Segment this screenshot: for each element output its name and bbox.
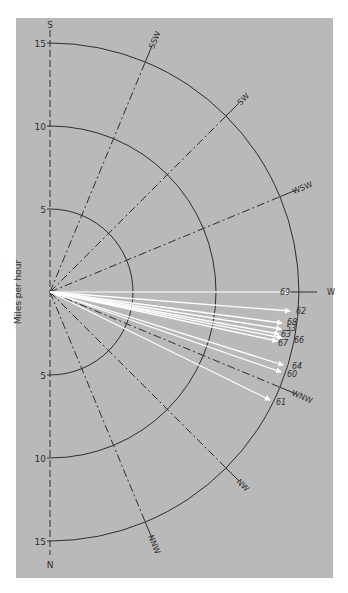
wind-arrow-53 xyxy=(50,292,281,329)
arrow-label: 67 xyxy=(278,339,289,348)
direction-label-wnw: WNW xyxy=(290,389,314,406)
direction-label-wsw: WSW xyxy=(291,180,314,196)
direction-line-nw xyxy=(50,292,226,468)
ring-label-top: 10 xyxy=(35,122,47,132)
ring-label-bottom: 15 xyxy=(35,537,46,547)
wind-arrow-67 xyxy=(50,292,277,341)
direction-label-ssw: SSW xyxy=(147,30,162,50)
arrow-label: 60 xyxy=(287,370,297,379)
direction-line-nnw xyxy=(50,292,145,522)
direction-label-nw: NW xyxy=(235,477,251,493)
arrow-label: 61 xyxy=(276,398,286,407)
wind-arrow-60 xyxy=(50,292,281,372)
wind-arrow-61 xyxy=(50,292,270,400)
direction-label-nnw: NNW xyxy=(146,534,162,556)
ring-label-bottom: 5 xyxy=(40,371,46,381)
direction-label-w: W xyxy=(327,288,335,297)
ring-label-top: 15 xyxy=(35,39,46,49)
ring-label-top: 5 xyxy=(40,205,46,215)
speed-rings: 5510101515 xyxy=(35,39,299,547)
wind-arrows: 69626853636667646061 xyxy=(50,288,306,407)
arrow-label: 62 xyxy=(296,307,306,316)
direction-line-wsw xyxy=(50,197,280,292)
direction-line-ssw xyxy=(50,62,145,292)
ring-label-bottom: 10 xyxy=(35,454,47,464)
axis-top-label: S xyxy=(47,20,53,30)
arrow-label: 69 xyxy=(280,288,290,297)
axis-bottom-label: N xyxy=(47,560,54,570)
direction-line-wnw xyxy=(50,292,280,387)
direction-line-sw xyxy=(50,116,226,292)
arrow-label: 63 xyxy=(281,330,291,339)
arrow-label: 66 xyxy=(294,336,304,345)
polar-wind-chart: 5510101515 SSWSWWSWWWNWNWNNW SN 69626853… xyxy=(0,0,348,593)
